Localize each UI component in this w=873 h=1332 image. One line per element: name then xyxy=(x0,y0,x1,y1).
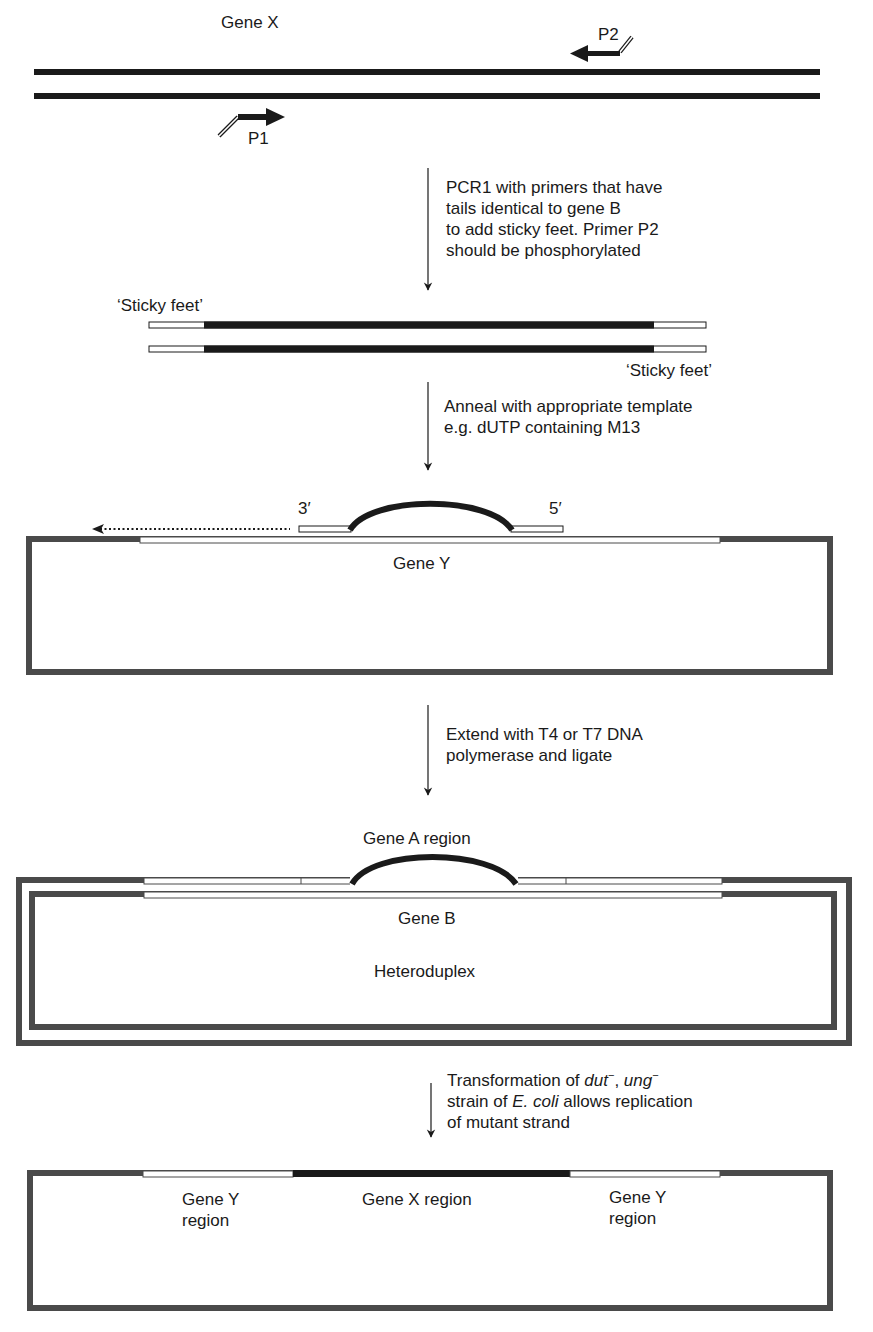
primer-p2-label: P2 xyxy=(598,24,619,45)
gene-x-region-label: Gene X region xyxy=(362,1189,472,1210)
gene-y-region-left-label: Gene Y region xyxy=(182,1189,239,1231)
step1-text: PCR1 with primers that have tails identi… xyxy=(446,177,662,261)
heteroduplex xyxy=(19,857,849,1043)
diagram-canvas xyxy=(0,0,873,1332)
step3-text: Extend with T4 or T7 DNA polymerase and … xyxy=(446,724,643,766)
gene-b-label: Gene B xyxy=(398,908,456,929)
three-prime-label: 3′ xyxy=(298,498,311,519)
gene-x-label: Gene X xyxy=(221,12,279,33)
gene-y-label: Gene Y xyxy=(393,553,450,574)
pcr-product-duplex xyxy=(149,322,706,353)
heteroduplex-label: Heteroduplex xyxy=(374,961,475,982)
step4-line3: of mutant strand xyxy=(447,1112,693,1133)
step4-line1: Transformation of dut−, ung− xyxy=(447,1070,693,1091)
sticky-feet-right-label: ‘Sticky feet’ xyxy=(626,360,712,381)
step4-text: Transformation of dut−, ung− strain of E… xyxy=(447,1070,693,1133)
five-prime-label: 5′ xyxy=(549,498,562,519)
gene-x-duplex xyxy=(34,69,820,99)
primer-p1-label: P1 xyxy=(248,128,269,149)
sticky-feet-left-label: ‘Sticky feet’ xyxy=(117,295,203,316)
step2-text: Anneal with appropriate template e.g. dU… xyxy=(444,396,693,438)
step4-line2: strain of E. coli allows replication xyxy=(447,1091,693,1112)
annealed-primer xyxy=(92,504,563,534)
gene-a-region-label: Gene A region xyxy=(363,828,471,849)
gene-y-region-right-label: Gene Y region xyxy=(609,1187,666,1229)
